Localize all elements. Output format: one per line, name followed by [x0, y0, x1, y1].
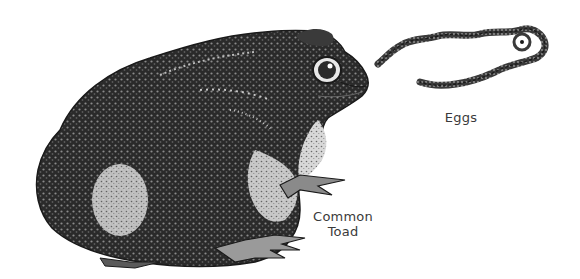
egg-string [378, 29, 545, 86]
toad-artwork [0, 0, 580, 279]
common-toad-label: Common Toad [308, 209, 378, 239]
eggs-label: Eggs [436, 110, 486, 125]
common-toad-label-line1: Common [308, 209, 378, 224]
toad-illustration: Eggs Common Toad [0, 0, 580, 279]
common-toad-label-line2: Toad [308, 224, 378, 239]
